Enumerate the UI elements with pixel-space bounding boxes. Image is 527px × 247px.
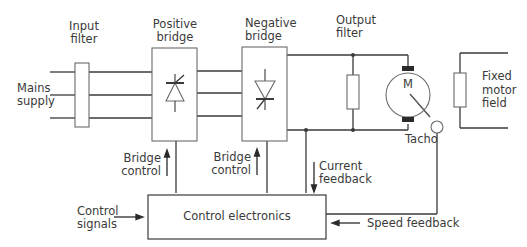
output-filter-label: Output filter: [336, 14, 376, 40]
motor-label: M: [403, 78, 413, 91]
bridge-control-label-2: Bridge control: [208, 151, 251, 177]
mains-supply-label: Mains supply: [17, 82, 55, 108]
input-filter-box: [75, 63, 89, 127]
brush-bottom: [402, 117, 414, 122]
brush-top: [402, 66, 414, 71]
field-resistor: [454, 73, 466, 107]
control-electronics-label: Control electronics: [148, 210, 326, 223]
output-filter-resistor: [347, 75, 359, 109]
negative-bridge-label: Negative bridge: [245, 17, 297, 43]
current-feedback-label: Current feedback: [319, 160, 372, 186]
tacho-label: Tacho: [405, 133, 438, 146]
fixed-motor-field-label: Fixed motor field: [482, 70, 517, 111]
bridge-control-label-1: Bridge control: [118, 152, 161, 178]
speed-feedback-label: Speed feedback: [367, 217, 460, 230]
positive-bridge-label: Positive bridge: [145, 18, 205, 44]
input-filter-label: Input filter: [60, 20, 108, 46]
control-signals-label: Control signals: [77, 205, 119, 231]
